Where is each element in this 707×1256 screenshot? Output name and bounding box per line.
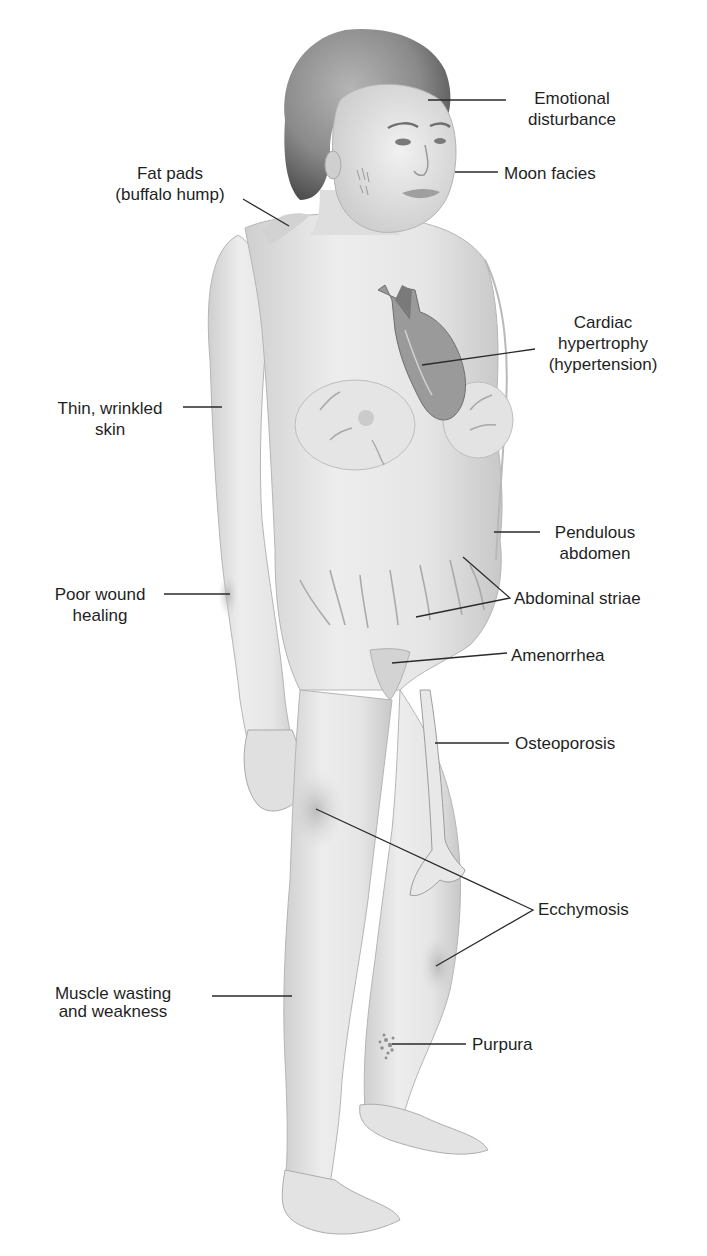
breast-left bbox=[295, 380, 415, 470]
ear bbox=[325, 151, 341, 179]
label-amenorrhea: Amenorrhea bbox=[511, 645, 605, 666]
foot-right bbox=[360, 1104, 488, 1154]
label-purpura: Purpura bbox=[472, 1034, 532, 1055]
label-emotional-disturbance: Emotional disturbance bbox=[512, 88, 632, 130]
label-ecchymosis: Ecchymosis bbox=[538, 899, 629, 920]
label-fat-pads: Fat pads (buffalo hump) bbox=[100, 163, 240, 205]
ecchymosis-thigh bbox=[288, 770, 344, 850]
label-poor-wound-healing: Poor wound healing bbox=[40, 584, 160, 626]
label-muscle-wasting: Muscle wasting and weakness bbox=[20, 985, 206, 1021]
label-thin-wrinkled-skin: Thin, wrinkled skin bbox=[40, 398, 180, 440]
foot-left bbox=[282, 1170, 400, 1234]
label-abdominal-striae: Abdominal striae bbox=[514, 588, 641, 609]
label-pendulous-abdomen: Pendulous abdomen bbox=[540, 522, 650, 564]
label-moon-facies: Moon facies bbox=[504, 163, 596, 184]
wound-forearm bbox=[218, 573, 238, 617]
face-moon-facies bbox=[333, 84, 456, 232]
body-figure bbox=[208, 29, 513, 1234]
label-osteoporosis: Osteoporosis bbox=[515, 733, 615, 754]
label-cardiac-hypertrophy: Cardiac hypertrophy (hypertension) bbox=[533, 312, 673, 375]
